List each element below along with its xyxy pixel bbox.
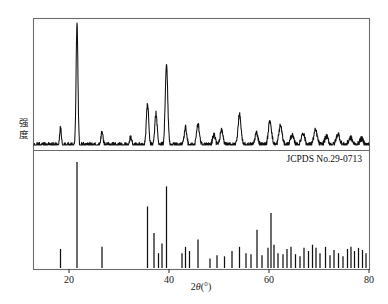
measured-xrd-trace <box>34 23 369 145</box>
xrd-figure: 20406080 2θ(°) 强 度 JCPDS No.29-0713 <box>0 0 388 304</box>
x-axis-title-unit: (°) <box>201 281 212 293</box>
jcpds-stick-pattern <box>61 162 367 268</box>
y-axis-label: 强 度 <box>19 117 29 140</box>
x-axis-tick-label: 20 <box>64 274 74 285</box>
measured-pattern-panel <box>34 23 369 145</box>
xrd-chart-canvas: 20406080 2θ(°) 强 度 JCPDS No.29-0713 <box>0 0 388 304</box>
x-axis-tick-label: 60 <box>264 274 274 285</box>
x-axis-title: 2θ(°) <box>191 281 212 293</box>
x-axis-tick-label: 40 <box>164 274 174 285</box>
x-axis-tick-labels: 20406080 <box>64 274 374 285</box>
jcpds-card-label: JCPDS No.29-0713 <box>287 154 363 164</box>
y-axis-label-char-1: 强 <box>19 117 29 128</box>
y-axis-label-char-2: 度 <box>19 129 29 140</box>
x-axis-tick-label: 80 <box>364 274 374 285</box>
